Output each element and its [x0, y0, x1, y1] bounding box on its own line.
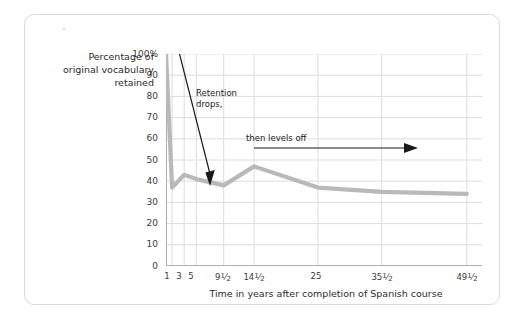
x-tick-25: 25 [307, 271, 325, 281]
x-tick-14-half-numerator: 1 [254, 272, 258, 280]
decorative-speck [63, 28, 65, 30]
x-tick-5: 5 [186, 271, 196, 281]
x-tick-35-half: 351⁄2 [366, 271, 398, 284]
y-tick-50: 50 [122, 156, 158, 165]
x-tick-49-half-numerator: 1 [467, 272, 471, 280]
x-tick-49-half-whole: 49 [456, 272, 467, 282]
x-tick-35-half-numerator: 1 [382, 272, 386, 280]
y-tick-100: 100% [122, 50, 158, 59]
y-tick-0: 0 [122, 262, 158, 271]
x-tick-3: 3 [174, 271, 184, 281]
x-tick-5-label: 5 [188, 271, 193, 281]
x-tick-3-label: 3 [176, 271, 181, 281]
annotation-retention-drops: Retention drops, [196, 88, 237, 110]
annotation-retention-drops-line2: drops, [196, 99, 237, 110]
x-tick-14-half-denominator: 2 [260, 275, 264, 283]
horizontal-gridlines [166, 54, 482, 245]
y-tick-60: 60 [122, 134, 158, 143]
x-tick-14-half-whole: 14 [243, 272, 254, 282]
annotation-levels-off: then levels off [246, 133, 306, 144]
y-tick-80: 80 [122, 92, 158, 101]
x-tick-25-label: 25 [311, 271, 322, 281]
x-tick-1-label: 1 [164, 271, 169, 281]
x-tick-14-half: 141⁄2 [238, 271, 270, 284]
y-tick-20: 20 [122, 219, 158, 228]
x-tick-9-half: 91⁄2 [209, 271, 237, 284]
annotation-retention-drops-line1: Retention [196, 88, 237, 99]
y-tick-70: 70 [122, 113, 158, 122]
y-tick-30: 30 [122, 198, 158, 207]
x-tick-49-half-denominator: 2 [473, 275, 477, 283]
x-tick-1: 1 [162, 271, 172, 281]
plot-area [166, 54, 482, 266]
chart-svg [166, 54, 482, 266]
y-tick-90: 90 [122, 71, 158, 80]
x-tick-9-half-numerator: 1 [221, 272, 225, 280]
levels-off-arrow [254, 143, 418, 153]
x-tick-35-half-whole: 35 [371, 272, 382, 282]
y-tick-10: 10 [122, 240, 158, 249]
x-axis-title: Time in years after completion of Spanis… [166, 288, 486, 299]
x-tick-9-half-denominator: 2 [226, 275, 230, 283]
y-tick-40: 40 [122, 177, 158, 186]
chart-page: Percentage of original vocabulary retain… [0, 0, 526, 323]
x-tick-35-half-denominator: 2 [388, 275, 392, 283]
x-tick-49-half: 491⁄2 [451, 271, 483, 284]
